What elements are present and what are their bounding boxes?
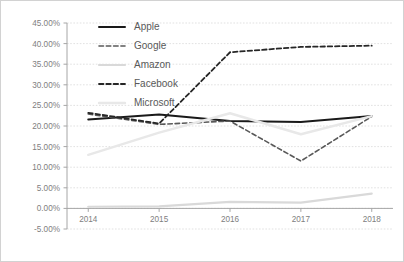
legend-label-google: Google [134, 40, 167, 51]
x-tick-label: 2014 [79, 215, 98, 224]
legend-label-facebook: Facebook [134, 78, 179, 89]
x-tick-label: 2018 [363, 215, 382, 224]
y-tick-label: 30.00% [32, 81, 60, 90]
x-tick-label: 2016 [221, 215, 240, 224]
y-axis-tick-labels: -5.00%0.00%5.00%10.00%15.00%20.00%25.00%… [32, 19, 60, 234]
series-line-google [88, 114, 371, 161]
y-tick-label: -5.00% [34, 225, 60, 234]
legend-label-amazon: Amazon [134, 59, 171, 70]
line-chart: -5.00%0.00%5.00%10.00%15.00%20.00%25.00%… [1, 1, 404, 262]
series-line-amazon [88, 194, 371, 207]
legend-label-apple: Apple [134, 21, 160, 32]
y-tick-label: 35.00% [32, 60, 60, 69]
chart-container: -5.00%0.00%5.00%10.00%15.00%20.00%25.00%… [0, 0, 404, 262]
x-tick-label: 2015 [150, 215, 169, 224]
y-axis-line [64, 23, 68, 229]
y-tick-label: 40.00% [32, 40, 60, 49]
y-tick-label: 45.00% [32, 19, 60, 28]
x-axis-line [67, 208, 393, 212]
data-series-group [88, 46, 371, 207]
legend-label-microsoft: Microsoft [134, 97, 175, 108]
y-tick-label: 15.00% [32, 143, 60, 152]
y-tick-label: 10.00% [32, 163, 60, 172]
y-tick-label: 0.00% [37, 204, 60, 213]
x-axis-tick-labels: 20142015201620172018 [79, 215, 381, 224]
series-line-facebook [88, 46, 371, 124]
y-tick-label: 5.00% [37, 184, 60, 193]
y-tick-label: 25.00% [32, 101, 60, 110]
chart-legend: AppleGoogleAmazonFacebookMicrosoft [99, 21, 179, 108]
y-tick-label: 20.00% [32, 122, 60, 131]
x-tick-label: 2017 [292, 215, 311, 224]
